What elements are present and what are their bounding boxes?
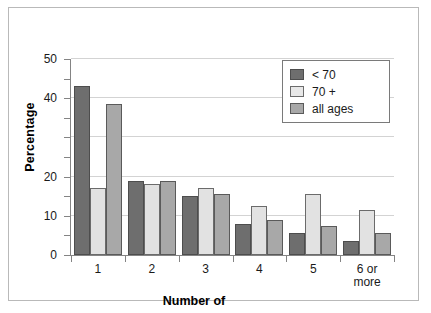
y-tick-label: 20 [27,171,57,183]
bar [321,226,337,255]
x-tick [233,256,234,262]
x-axis-title: Number of [124,294,264,308]
x-tick-label: 5 [283,263,343,276]
x-tick [340,256,341,262]
bar [182,196,198,255]
x-tick [394,256,395,262]
y-tick [64,79,70,80]
x-tick [125,256,126,262]
y-tick-label: 40 [27,92,57,104]
bar [343,241,359,255]
x-tick-label: 4 [229,263,289,276]
bar [359,210,375,255]
bar-group [179,59,233,255]
bar [106,104,122,255]
legend-label: all ages [312,102,353,116]
bar [305,194,321,255]
bar [74,86,90,255]
bar [251,206,267,255]
figure-frame: Percentage 504020100 123456 ormore Numbe… [8,7,419,301]
y-tick [64,255,70,256]
bar [289,233,305,255]
bar [160,181,176,255]
legend-swatch-icon [290,86,304,97]
legend-item: 70 + [290,83,383,100]
y-tick [64,59,70,60]
bar-group [125,59,179,255]
x-tick [71,256,72,262]
x-tick-label: 2 [122,263,182,276]
bar [90,188,106,255]
legend-swatch-icon [290,103,304,114]
x-tick-label: 3 [176,263,236,276]
bar-group [71,59,125,255]
bar-group [233,59,287,255]
legend-label: < 70 [312,68,336,82]
x-tick [179,256,180,262]
y-tick-label: 50 [27,53,57,65]
x-tick-label: 1 [68,263,128,276]
y-tick-label: 0 [27,249,57,261]
bar [198,188,214,255]
x-tick [286,256,287,262]
legend-item: < 70 [290,66,383,83]
y-tick [64,196,70,197]
y-axis-line [70,59,71,256]
legend-label: 70 + [312,85,336,99]
y-tick [64,177,70,178]
x-tick-label: 6 ormore [337,263,397,289]
chart-legend: < 7070 +all ages [282,60,390,123]
bar [214,194,230,255]
y-tick-label: 10 [27,210,57,222]
y-tick [64,235,70,236]
y-tick [64,157,70,158]
y-tick [64,216,70,217]
legend-item: all ages [290,100,383,117]
bar [128,181,144,255]
bar [375,233,391,255]
y-tick [64,118,70,119]
y-tick [64,137,70,138]
bar [235,224,251,255]
y-tick [64,98,70,99]
bar [267,220,283,255]
legend-swatch-icon [290,69,304,80]
bar [144,184,160,255]
